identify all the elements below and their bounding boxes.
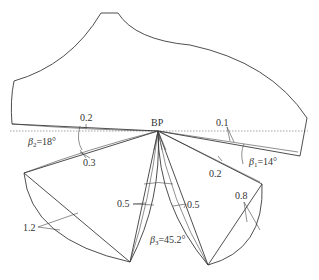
leader-left-1.2 [38, 213, 78, 230]
label-right-lower-offset: 0.2 [209, 168, 222, 179]
beta2-angle-arc [78, 126, 82, 150]
leader-right-0.2 [218, 156, 222, 161]
leader-right-0.8 [244, 202, 260, 230]
angle-label-beta2: β2=18° [27, 136, 56, 149]
label-mid-right-offset: 0.5 [187, 199, 200, 210]
leader-mid-left-0.5 [133, 203, 154, 205]
left-blade-chord [24, 173, 130, 262]
label-right-large-offset: 0.8 [235, 190, 248, 201]
label-top-left-offset: 0.2 [80, 112, 93, 123]
leader-top-right-0.1 [227, 127, 234, 142]
label-left-large-offset: 1.2 [23, 222, 36, 233]
label-left-lower-offset: 0.3 [83, 157, 96, 168]
beta3-angle-arc [144, 183, 173, 185]
label-top-right-offset: 0.1 [216, 117, 229, 128]
angle-label-beta1: β1=14° [248, 156, 277, 169]
diagram-canvas: BP 0.2 0.1 0.3 0.2 1.2 0.5 0.5 0.8 β2=18… [0, 0, 319, 280]
beta1-angle-arc [242, 144, 244, 164]
label-mid-left-offset: 0.5 [117, 198, 130, 209]
angle-label-beta3: β3=45.2° [149, 234, 186, 247]
blade-geometry-diagram: BP 0.2 0.1 0.3 0.2 1.2 0.5 0.5 0.8 β2=18… [0, 0, 319, 280]
pivot-label: BP [151, 117, 164, 128]
